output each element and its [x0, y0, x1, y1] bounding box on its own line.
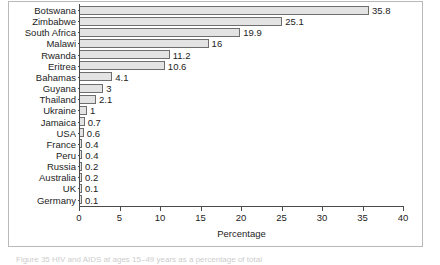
x-axis-tick-label: 20	[226, 212, 256, 223]
x-axis-tick	[201, 207, 202, 211]
bar-value-label: 35.8	[372, 5, 391, 16]
bar	[79, 39, 209, 48]
bar-value-label: 0.1	[85, 195, 98, 206]
x-axis-tick-label: 40	[388, 212, 418, 223]
category-label: Peru	[10, 150, 76, 161]
x-axis-title: Percentage	[79, 228, 404, 239]
bar-value-label: 19.9	[243, 27, 262, 38]
bar	[79, 95, 96, 104]
x-axis-tick	[241, 207, 242, 211]
bar-row: Bahamas4.1	[10, 72, 405, 83]
x-axis-tick-label: 5	[105, 212, 135, 223]
bar-value-label: 16	[212, 38, 223, 49]
bar-row: USA0.6	[10, 128, 405, 139]
x-axis-tick	[120, 207, 121, 211]
category-label: Germany	[10, 195, 76, 206]
bar	[79, 6, 369, 15]
x-axis-tick-label: 35	[348, 212, 378, 223]
category-label: Eritrea	[10, 61, 76, 72]
bar-row: Russia0.2	[10, 161, 405, 172]
x-axis-tick-label: 30	[307, 212, 337, 223]
bar-value-label: 3	[106, 83, 111, 94]
bar	[79, 106, 87, 115]
category-label: Jamaica	[10, 117, 76, 128]
bar	[79, 61, 165, 70]
bar-row: South Africa19.9	[10, 27, 405, 38]
category-label: France	[10, 139, 76, 150]
category-label: Malawi	[10, 38, 76, 49]
bar-row: Eritrea10.6	[10, 61, 405, 72]
x-axis-tick	[282, 207, 283, 211]
category-label: USA	[10, 128, 76, 139]
bar-value-label: 10.6	[168, 61, 187, 72]
bar-value-label: 0.1	[85, 183, 98, 194]
bar-value-label: 2.1	[99, 94, 112, 105]
bar-row: UK0.1	[10, 183, 405, 194]
bar	[79, 72, 112, 81]
bar-value-label: 0.6	[87, 128, 100, 139]
bar-row: Australia0.2	[10, 172, 405, 183]
category-label: Australia	[10, 172, 76, 183]
bar-row: Rwanda11.2	[10, 50, 405, 61]
bar-row: Botswana35.8	[10, 5, 405, 16]
bar	[79, 17, 282, 26]
figure-caption: Figure 35 HIV and AIDS at ages 15–49 yea…	[16, 255, 426, 265]
category-label: Thailand	[10, 94, 76, 105]
bar-row: Jamaica0.7	[10, 117, 405, 128]
x-axis-tick	[403, 207, 404, 211]
bar-row: Ukraine1	[10, 105, 405, 116]
bar	[79, 28, 240, 37]
category-label: Botswana	[10, 5, 76, 16]
bar-value-label: 0.4	[85, 150, 98, 161]
bar-value-label: 0.4	[85, 139, 98, 150]
bar	[79, 50, 170, 59]
x-axis-tick	[363, 207, 364, 211]
x-axis-tick	[79, 207, 80, 211]
bar-value-label: 25.1	[285, 16, 304, 27]
category-label: South Africa	[10, 27, 76, 38]
bar-value-label: 0.2	[85, 172, 98, 183]
x-axis-tick-label: 25	[267, 212, 297, 223]
x-axis-tick-label: 10	[145, 212, 175, 223]
category-label: Zimbabwe	[10, 16, 76, 27]
bar-row: Malawi16	[10, 38, 405, 49]
bar-chart: Botswana35.8Zimbabwe25.1South Africa19.9…	[0, 0, 440, 265]
bar-value-label: 11.2	[173, 50, 191, 61]
bar-row: Guyana3	[10, 83, 405, 94]
x-axis-tick-label: 15	[186, 212, 216, 223]
x-axis-tick	[160, 207, 161, 211]
category-label: Guyana	[10, 83, 76, 94]
x-axis-tick	[322, 207, 323, 211]
category-label: Rwanda	[10, 50, 76, 61]
category-label: Bahamas	[10, 72, 76, 83]
bar-row: France0.4	[10, 139, 405, 150]
bar-row: Thailand2.1	[10, 94, 405, 105]
bar-value-label: 0.2	[85, 161, 98, 172]
bar	[79, 84, 103, 93]
bar-value-label: 0.7	[88, 117, 101, 128]
x-axis-tick-label: 0	[64, 212, 94, 223]
bar-row: Peru0.4	[10, 150, 405, 161]
category-label: Russia	[10, 161, 76, 172]
category-label: UK	[10, 183, 76, 194]
y-axis-line	[79, 4, 80, 206]
bar-value-label: 4.1	[115, 72, 128, 83]
bar-row: Zimbabwe25.1	[10, 16, 405, 27]
bar-value-label: 1	[90, 105, 95, 116]
bar-row: Germany0.1	[10, 195, 405, 206]
figure-container: Botswana35.8Zimbabwe25.1South Africa19.9…	[0, 0, 440, 265]
category-label: Ukraine	[10, 105, 76, 116]
